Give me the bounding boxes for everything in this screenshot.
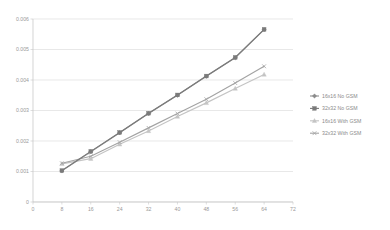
data-point-marker: [233, 56, 237, 60]
series-line: [62, 66, 264, 163]
y-tick-label: 0.005: [16, 46, 29, 52]
x-tick-label: 64: [261, 206, 267, 212]
data-point-marker: [262, 72, 266, 76]
x-tick-label: 40: [175, 206, 181, 212]
chart-legend: 16x16 No GSM32x32 No GSM16x16 With GSM32…: [310, 93, 361, 136]
data-point-marker: [118, 131, 122, 135]
x-tick-label: 72: [290, 206, 296, 212]
x-tick-label: 16: [88, 206, 94, 212]
x-axis-tick-labels: 081624324048566472: [32, 206, 296, 212]
line-chart: 00.0010.0020.0030.0040.0050.006 08162432…: [0, 0, 390, 230]
legend-item[interactable]: 32x32 No GSM: [310, 105, 357, 111]
y-axis-tick-labels: 00.0010.0020.0030.0040.0050.006: [16, 16, 29, 205]
legend-label: 32x32 No GSM: [322, 105, 357, 111]
data-point-marker: [262, 27, 266, 31]
data-point-marker: [204, 74, 208, 78]
data-point-marker: [233, 81, 237, 85]
x-axis: [33, 202, 293, 205]
data-point-marker: [89, 149, 93, 153]
y-tick-label: 0: [26, 199, 29, 205]
legend-item[interactable]: 32x32 With GSM: [310, 130, 361, 136]
legend-label: 32x32 With GSM: [322, 130, 361, 136]
data-point-marker: [147, 111, 151, 115]
x-tick-label: 8: [60, 206, 63, 212]
legend-item[interactable]: 16x16 No GSM: [310, 93, 357, 99]
chart-container: 00.0010.0020.0030.0040.0050.006 08162432…: [0, 0, 390, 230]
y-tick-label: 0.003: [16, 107, 29, 113]
y-tick-label: 0.001: [16, 168, 29, 174]
data-point-marker: [312, 94, 316, 98]
legend-item[interactable]: 16x16 With GSM: [310, 118, 361, 124]
x-tick-label: 32: [146, 206, 152, 212]
grid-lines: [33, 19, 293, 202]
y-tick-label: 0.004: [16, 77, 29, 83]
legend-label: 16x16 With GSM: [322, 118, 361, 124]
data-point-marker: [60, 169, 64, 173]
x-tick-label: 48: [203, 206, 209, 212]
y-tick-label: 0.006: [16, 16, 29, 22]
x-tick-label: 24: [117, 206, 123, 212]
x-tick-label: 0: [32, 206, 35, 212]
data-point-marker: [262, 64, 266, 68]
data-point-marker: [313, 107, 317, 111]
x-tick-label: 56: [232, 206, 238, 212]
legend-label: 16x16 No GSM: [322, 93, 357, 99]
y-tick-label: 0.002: [16, 138, 29, 144]
y-axis: [31, 19, 34, 202]
data-point-marker: [176, 93, 180, 97]
